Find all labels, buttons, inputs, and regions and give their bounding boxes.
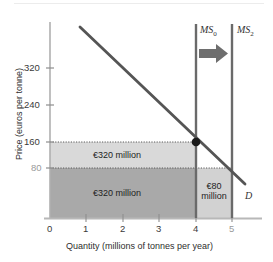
upper-revenue-label: €320 million [93, 150, 141, 160]
y-tick-label-160: 160 [24, 136, 40, 147]
y-tick-label-240: 240 [24, 99, 40, 110]
supply-label-ms0: MS0 [200, 24, 217, 38]
supply-label-ms2: MS2 [237, 24, 254, 38]
y-axis-title: Price (euros per tonne) [14, 68, 24, 160]
supply-label-ms2-main: MS [237, 24, 250, 35]
lower-revenue-label: €320 million [93, 188, 141, 198]
economics-supply-demand-figure: Price (euros per tonne) Quantity (millio… [0, 0, 273, 262]
x-tick-label-1: 1 [83, 223, 88, 234]
y-tick-label-80: 80 [31, 162, 42, 173]
supply-label-ms2-sub: 2 [250, 30, 254, 38]
equilibrium-point [192, 138, 201, 147]
extra-revenue-label-line1: €80 [200, 181, 228, 191]
shift-arrow-icon [199, 44, 228, 63]
x-tick-label-3: 3 [156, 223, 161, 234]
x-tick-label-5: 5 [229, 223, 234, 234]
x-tick-label-0: 0 [47, 223, 52, 234]
x-tick-label-2: 2 [120, 223, 125, 234]
demand-label: D [245, 190, 252, 201]
supply-label-ms0-main: MS [200, 24, 213, 35]
extra-revenue-label: €80 million [200, 181, 228, 201]
x-tick-label-4: 4 [193, 223, 198, 234]
extra-revenue-label-line2: million [200, 191, 228, 201]
supply-label-ms0-sub: 0 [213, 30, 217, 38]
y-tick-label-320: 320 [24, 62, 40, 73]
x-axis-title: Quantity (millions of tonnes per year) [66, 241, 213, 251]
